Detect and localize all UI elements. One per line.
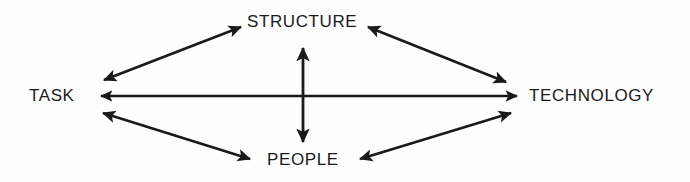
node-label-task: TASK xyxy=(29,87,75,105)
node-label-structure: STRUCTURE xyxy=(247,13,357,31)
node-label-technology: TECHNOLOGY xyxy=(529,87,654,105)
node-label-people: PEOPLE xyxy=(267,151,339,169)
leavitt-diamond-diagram: STRUCTURE TASK TECHNOLOGY PEOPLE xyxy=(0,0,690,182)
connector-structure-technology xyxy=(368,27,506,82)
connector-people-technology xyxy=(360,113,511,159)
connector-task-structure xyxy=(104,27,241,80)
connector-task-people xyxy=(103,113,250,159)
